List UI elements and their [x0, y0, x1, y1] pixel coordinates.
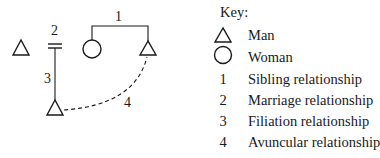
marriage-label: 2 [51, 23, 58, 38]
key-woman-circle-icon [215, 47, 232, 64]
child-man-triangle-icon [47, 100, 63, 115]
man-triangle-icon [13, 40, 29, 55]
key-number-1: 1 [216, 71, 230, 87]
key-number-4: 4 [216, 134, 230, 150]
key-label-filiation: Filiation relationship [248, 113, 369, 129]
avuncular-label: 4 [124, 95, 131, 110]
key-title: Key: [220, 4, 248, 20]
key-number-3: 3 [216, 113, 230, 129]
woman-circle-icon [83, 40, 101, 58]
key-label-avuncular: Avuncular relationship [248, 134, 380, 150]
avuncular-dashed-curve [64, 57, 147, 110]
key-man-triangle-icon [215, 28, 231, 42]
key-label-sibling: Sibling relationship [248, 71, 362, 87]
key-number-2: 2 [216, 92, 230, 108]
uncle-man-triangle-icon [140, 41, 156, 55]
filiation-label: 3 [44, 71, 51, 86]
key-label-woman: Woman [248, 49, 293, 65]
marriage-symbol [48, 44, 62, 48]
key-label-marriage: Marriage relationship [248, 92, 373, 108]
sibling-bracket [92, 26, 148, 41]
sibling-label: 1 [115, 9, 122, 24]
key-label-man: Man [248, 27, 275, 43]
